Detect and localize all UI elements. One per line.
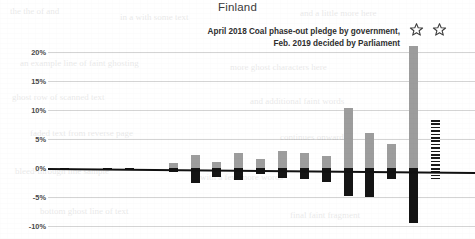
y-axis-tick-label: 20% <box>6 48 46 57</box>
star-icon <box>409 22 424 41</box>
star-icon <box>432 22 447 41</box>
bar-pos-6 <box>191 155 200 168</box>
y-axis-tick-label: -5% <box>6 193 46 202</box>
bar-pos-8 <box>234 153 243 168</box>
bar-hatch-17 <box>431 120 440 168</box>
bar-pos-14 <box>365 133 374 168</box>
bar-chart-plot-area <box>0 0 475 239</box>
bar-pos-13 <box>344 108 353 168</box>
gridline <box>48 226 475 227</box>
bar-pos-9 <box>256 159 265 168</box>
y-axis-tick-label: -10% <box>6 222 46 231</box>
y-axis-tick-label: 0% <box>6 164 46 173</box>
bar-pos-15 <box>387 144 396 168</box>
y-axis-tick-label: 15% <box>6 77 46 86</box>
bar-neg-15 <box>387 168 396 179</box>
y-axis-tick-label: 5% <box>6 135 46 144</box>
bar-hatch-17-neg <box>431 168 440 179</box>
bar-pos-11 <box>300 153 309 168</box>
bar-pos-16 <box>409 46 418 168</box>
bar-pos-10 <box>278 151 287 168</box>
bar-neg-16 <box>409 168 418 223</box>
y-axis-tick-label: 10% <box>6 106 46 115</box>
y-axis-labels: 20%15%10%5%0%-5%-10% <box>0 0 46 239</box>
bar-pos-12 <box>322 156 331 168</box>
